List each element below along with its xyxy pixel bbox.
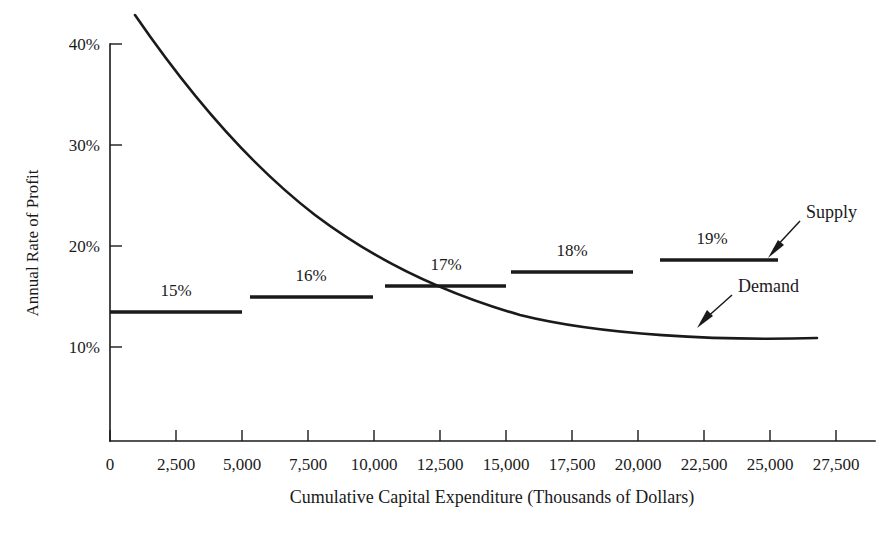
demand-arrow-head — [697, 310, 713, 328]
x-tick-label: 2,500 — [157, 455, 195, 474]
chart-plot-area: 40% 30% 20% 10% 0 2,500 5,000 7,500 — [0, 0, 894, 536]
x-tick-label: 12,500 — [417, 455, 464, 474]
step-label-15: 15% — [160, 281, 191, 300]
x-axis-ticks — [110, 430, 836, 441]
x-axis-tick-labels: 0 2,500 5,000 7,500 10,000 12,500 15,000… — [106, 455, 860, 474]
x-tick-label: 7,500 — [289, 455, 327, 474]
demand-curve — [135, 15, 817, 339]
y-tick-label: 30% — [69, 136, 100, 155]
x-tick-label: 20,000 — [615, 455, 662, 474]
y-tick-label: 40% — [69, 35, 100, 54]
y-axis-ticks — [110, 44, 122, 347]
y-axis-title: Annual Rate of Profit — [23, 169, 42, 316]
y-tick-label: 10% — [69, 338, 100, 357]
step-label-19: 19% — [696, 229, 727, 248]
supply-arrow-head — [768, 240, 784, 258]
x-tick-label: 17,500 — [549, 455, 596, 474]
x-axis-title: Cumulative Capital Expenditure (Thousand… — [290, 487, 694, 508]
step-label-16: 16% — [295, 266, 326, 285]
demand-annotation-group: Demand — [697, 276, 799, 328]
y-tick-label: 20% — [69, 237, 100, 256]
supply-label: Supply — [806, 202, 857, 222]
x-tick-label: 25,000 — [747, 455, 794, 474]
x-tick-label: 27,500 — [813, 455, 860, 474]
y-axis-tick-labels: 40% 30% 20% 10% — [69, 35, 100, 357]
x-tick-label: 0 — [106, 455, 115, 474]
supply-annotation-group: Supply — [768, 202, 857, 258]
step-label-18: 18% — [556, 241, 587, 260]
step-label-17: 17% — [430, 255, 461, 274]
x-tick-label: 22,500 — [681, 455, 728, 474]
x-tick-label: 5,000 — [223, 455, 261, 474]
chart-container: 40% 30% 20% 10% 0 2,500 5,000 7,500 — [0, 0, 894, 536]
x-tick-label: 10,000 — [351, 455, 398, 474]
demand-label: Demand — [738, 276, 799, 296]
x-tick-label: 15,000 — [483, 455, 530, 474]
